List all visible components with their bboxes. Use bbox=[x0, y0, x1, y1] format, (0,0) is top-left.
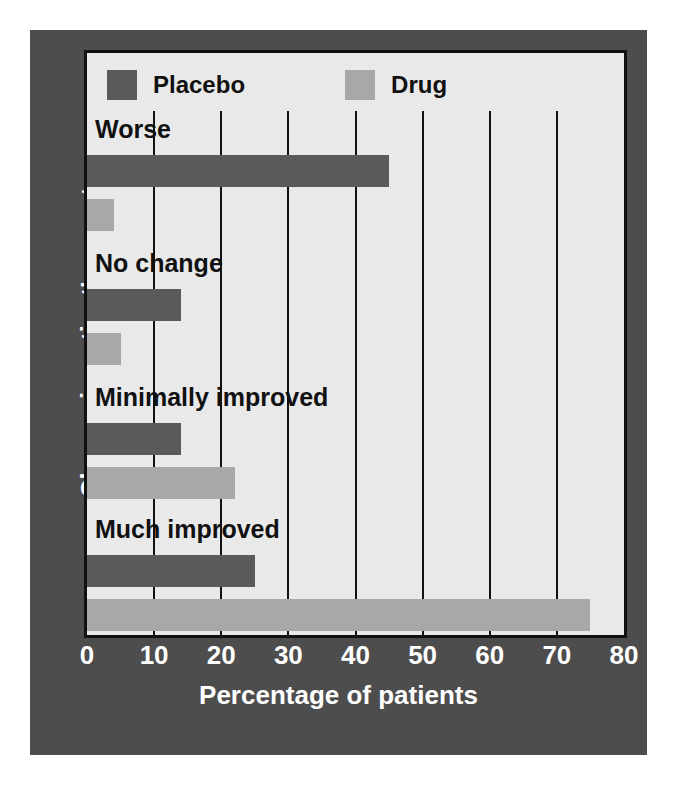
legend-swatch-drug bbox=[345, 70, 375, 100]
bar-drug bbox=[87, 333, 121, 365]
bar-group: Much improved bbox=[87, 515, 624, 635]
legend-label-drug: Drug bbox=[391, 71, 447, 99]
category-label: Much improved bbox=[95, 515, 280, 544]
bar-drug bbox=[87, 599, 590, 631]
chart-panel: Change in patient's symptoms WorseNo cha… bbox=[30, 30, 647, 755]
legend-label-placebo: Placebo bbox=[153, 71, 245, 99]
x-tick-label: 0 bbox=[80, 640, 94, 671]
x-tick-label: 10 bbox=[140, 640, 169, 671]
category-label: Minimally improved bbox=[95, 383, 328, 412]
x-tick-label: 50 bbox=[408, 640, 437, 671]
x-tick-label: 20 bbox=[207, 640, 236, 671]
bar-placebo bbox=[87, 289, 181, 321]
bar-group: No change bbox=[87, 249, 624, 369]
category-label: No change bbox=[95, 249, 223, 278]
x-tick-label: 70 bbox=[542, 640, 571, 671]
bar-placebo bbox=[87, 555, 255, 587]
x-tick-label: 40 bbox=[341, 640, 370, 671]
bar-placebo bbox=[87, 423, 181, 455]
legend-item-placebo: Placebo bbox=[107, 70, 245, 100]
chart-legend: Placebo Drug bbox=[107, 65, 447, 105]
category-label: Worse bbox=[95, 115, 171, 144]
legend-item-drug: Drug bbox=[345, 70, 447, 100]
x-axis-title: Percentage of patients bbox=[30, 680, 647, 711]
bar-group: Minimally improved bbox=[87, 383, 624, 503]
x-tick-label: 80 bbox=[610, 640, 639, 671]
plot-area: WorseNo changeMinimally improvedMuch imp… bbox=[87, 53, 624, 635]
x-tick-label: 60 bbox=[475, 640, 504, 671]
chart-figure: Change in patient's symptoms WorseNo cha… bbox=[0, 0, 677, 785]
bar-placebo bbox=[87, 155, 389, 187]
bar-drug bbox=[87, 199, 114, 231]
plot-frame: WorseNo changeMinimally improvedMuch imp… bbox=[84, 50, 627, 638]
x-axis-ticks: 01020304050607080 bbox=[84, 640, 627, 674]
bar-drug bbox=[87, 467, 235, 499]
legend-swatch-placebo bbox=[107, 70, 137, 100]
x-tick-label: 30 bbox=[274, 640, 303, 671]
bar-group: Worse bbox=[87, 115, 624, 235]
